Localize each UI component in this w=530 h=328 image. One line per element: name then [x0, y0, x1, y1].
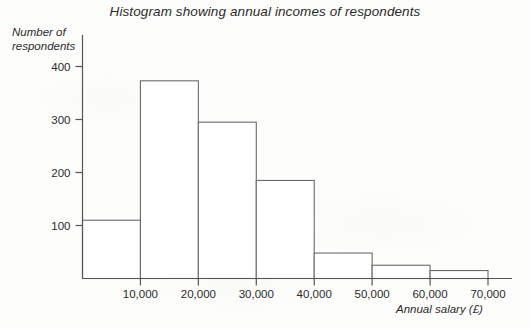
histogram-bar	[372, 265, 430, 278]
bar-series	[83, 81, 489, 279]
y-tick-label: 200	[51, 167, 70, 179]
y-tick-label: 400	[51, 61, 70, 73]
x-tick-label: 60,000	[412, 288, 447, 300]
histogram-bar	[198, 122, 256, 278]
histogram-bar	[140, 81, 198, 279]
histogram-bar	[256, 180, 314, 278]
x-tick-label: 10,000	[123, 288, 158, 300]
x-tick-label: 30,000	[239, 288, 274, 300]
histogram-bar	[314, 253, 372, 278]
y-axis-ticks: 100200300400	[51, 61, 82, 232]
histogram-bar	[83, 220, 141, 278]
x-axis-ticks: 10,00020,00030,00040,00050,00060,00070,0…	[123, 279, 506, 300]
x-tick-label: 70,000	[470, 288, 505, 300]
x-tick-label: 50,000	[355, 288, 390, 300]
plot-area: 100200300400 10,00020,00030,00040,00050,…	[0, 0, 530, 328]
x-axis-title: Annual salary (£)	[396, 303, 483, 315]
x-tick-label: 20,000	[181, 288, 216, 300]
histogram-figure: Histogram showing annual incomes of resp…	[0, 0, 530, 328]
y-tick-label: 100	[51, 220, 70, 232]
y-tick-label: 300	[51, 114, 70, 126]
x-tick-label: 40,000	[297, 288, 332, 300]
histogram-bar	[430, 271, 488, 279]
